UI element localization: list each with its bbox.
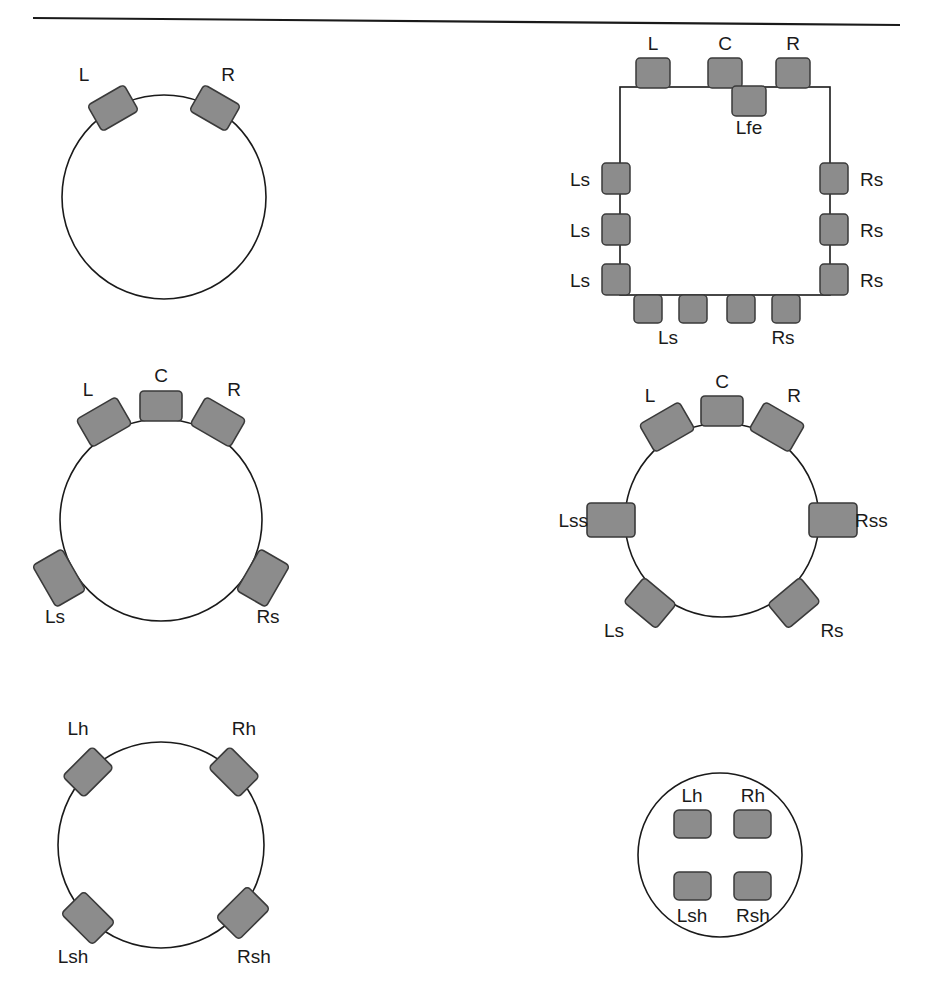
speaker-box-Rs	[236, 549, 289, 608]
speaker-box-Rs-1	[820, 163, 848, 194]
room-square	[620, 87, 830, 295]
speaker-box-R	[190, 397, 246, 448]
speaker-box-Ls-1	[602, 163, 630, 194]
speaker-label-Lsh: Lsh	[677, 905, 708, 926]
speaker-label-R: R	[787, 385, 801, 406]
speaker-label-Rs-1: Rs	[860, 169, 883, 190]
speaker-label-R: R	[786, 33, 800, 54]
speaker-box-Rsh	[734, 872, 771, 900]
speaker-box-Lss	[587, 503, 635, 537]
speaker-box-Ls-2	[602, 214, 630, 245]
speaker-label-Ls-2: Ls	[570, 220, 590, 241]
speaker-label-L: L	[83, 379, 94, 400]
speaker-box-R	[189, 85, 240, 132]
speaker-layout-figure-canvas: L R L C R Lfe Ls Ls Ls	[0, 0, 931, 987]
speaker-label-C: C	[718, 33, 732, 54]
speaker-box-Rs-2	[820, 214, 848, 245]
figure-height-layer: Lh Rh Lsh Rsh	[58, 718, 271, 967]
speaker-box-Ls	[32, 549, 85, 608]
speaker-box-Lfe	[732, 86, 766, 116]
speaker-box-L	[636, 58, 670, 88]
speaker-label-Ls: Ls	[45, 606, 65, 627]
speaker-box-Lh	[674, 810, 711, 838]
speaker-label-Lsh: Lsh	[58, 946, 89, 967]
speaker-label-Rsh: Rsh	[237, 946, 271, 967]
speaker-box-Ls	[624, 577, 677, 629]
figure-two-channel-stereo: L R	[62, 64, 266, 299]
speaker-label-L: L	[645, 385, 656, 406]
speaker-label-Lss: Lss	[558, 510, 588, 531]
speaker-label-Lfe: Lfe	[736, 117, 762, 138]
speaker-box-Ls-3	[602, 264, 630, 295]
speaker-box-R	[749, 402, 805, 453]
speaker-box-C	[140, 391, 182, 421]
speaker-label-Rs-2: Rs	[860, 220, 883, 241]
speaker-label-L: L	[79, 64, 90, 85]
speaker-label-Ls-bottom: Ls	[658, 327, 678, 348]
top-rule	[33, 18, 900, 25]
speaker-box-Rs-5	[772, 295, 800, 323]
speaker-label-Ls-1: Ls	[570, 169, 590, 190]
speaker-box-Rs-4	[727, 295, 755, 323]
speaker-box-L	[76, 397, 132, 448]
speaker-label-L: L	[648, 33, 659, 54]
speaker-label-C: C	[715, 371, 729, 392]
speaker-label-Rs: Rs	[256, 606, 279, 627]
listener-circle	[638, 773, 802, 937]
speaker-label-C: C	[154, 365, 168, 386]
speaker-box-Rh	[734, 810, 771, 838]
speaker-box-Ls-5	[679, 295, 707, 323]
diagram-page: L R L C R Lfe Ls Ls Ls	[0, 0, 931, 987]
speaker-box-Lsh	[674, 872, 711, 900]
speaker-label-Rss: Rss	[855, 510, 888, 531]
listener-circle	[60, 419, 262, 621]
speaker-box-L	[87, 85, 138, 132]
speaker-label-Lh: Lh	[681, 785, 702, 806]
figure-square-layout: L C R Lfe Ls Ls Ls Rs Rs Rs	[570, 33, 883, 348]
listener-circle	[62, 95, 266, 299]
figure-overhead-layer: Lh Rh Lsh Rsh	[638, 773, 802, 937]
figure-five-channel-surround: C L R Ls Rs	[32, 365, 289, 627]
speaker-box-Rss	[809, 503, 857, 537]
speaker-label-R: R	[227, 379, 241, 400]
speaker-box-Lh	[63, 747, 114, 798]
speaker-label-Rh: Rh	[741, 785, 765, 806]
speaker-label-R: R	[221, 64, 235, 85]
speaker-box-L	[639, 402, 695, 453]
speaker-label-Ls: Ls	[604, 620, 624, 641]
speaker-box-C	[701, 396, 743, 426]
speaker-label-Rsh: Rsh	[736, 905, 770, 926]
speaker-label-Rs-3: Rs	[860, 270, 883, 291]
speaker-box-Rs-3	[820, 264, 848, 295]
speaker-box-C	[708, 58, 742, 88]
speaker-box-Ls-4	[634, 295, 662, 323]
speaker-label-Rh: Rh	[232, 718, 256, 739]
speaker-box-Rs	[768, 577, 821, 629]
figure-seven-channel-surround: C L R Lss Rss Ls	[558, 371, 887, 641]
speaker-box-Lsh	[61, 891, 115, 945]
speaker-box-Rsh	[216, 886, 270, 940]
speaker-label-Rs: Rs	[820, 620, 843, 641]
speaker-label-Rs-bottom: Rs	[771, 327, 794, 348]
speaker-box-Rh	[209, 747, 260, 798]
speaker-label-Lh: Lh	[67, 718, 88, 739]
speaker-box-R	[776, 58, 810, 88]
speaker-label-Ls-3: Ls	[570, 270, 590, 291]
